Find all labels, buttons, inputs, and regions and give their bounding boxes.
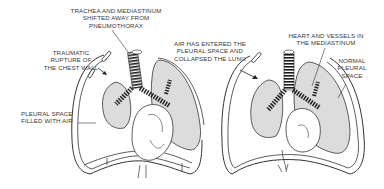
left-aorta: [138, 165, 146, 178]
label-air-entered: AIR HAS ENTERED THE PLEURAL SPACE AND CO…: [166, 40, 254, 62]
label-heart-vessels: HEART AND VESSELS IN THE MEDIASTINUM: [281, 32, 371, 47]
left-collapsed-lung: [103, 82, 131, 128]
left-trachea: [128, 51, 143, 88]
right-trachea: [284, 52, 294, 90]
left-heart: [132, 105, 173, 161]
label-trachea-shift: TRACHEA AND MEDIASTINUM SHIFTED AWAY FRO…: [60, 7, 172, 29]
label-traumatic-rupture: TRAUMATIC RUPTURE OF THE CHEST WALL: [38, 49, 104, 71]
label-normal-pleural: NORMAL PLEURAL SPACE: [334, 57, 370, 79]
diagram-illustration: [0, 0, 384, 189]
pneumothorax-diagram: TRACHEA AND MEDIASTINUM SHIFTED AWAY FRO…: [0, 0, 384, 189]
label-pleural-air: PLEURAL SPACE FILLED WITH AIR: [21, 110, 91, 125]
right-heart: [286, 108, 320, 152]
right-panel-collapsed-lung: [251, 80, 283, 138]
